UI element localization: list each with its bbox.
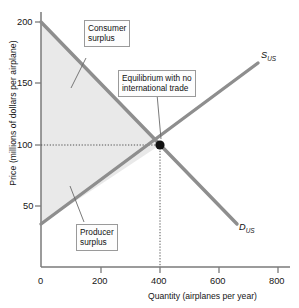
x-tick-label-600: 600 [210, 276, 226, 286]
equilibrium-callout-leader [157, 94, 161, 139]
x-tick-label-800: 800 [269, 276, 285, 286]
consumer-surplus-callout-line2: surplus [88, 33, 126, 43]
demand-curve-label: DUS [239, 222, 255, 234]
equilibrium-callout-line2: international trade [122, 83, 192, 93]
consumer-surplus-callout-line1: Consumer [88, 23, 126, 33]
producer-surplus-callout: Producer surplus [76, 224, 118, 251]
x-tick-label-200: 200 [92, 276, 108, 286]
supply-curve-label-sub: US [267, 55, 276, 62]
equilibrium-point-marker [155, 140, 164, 149]
y-tick-label-150: 150 [17, 78, 33, 88]
x-tick-label-0: 0 [38, 276, 43, 286]
chart-canvas: Price (millions of dollars per airplane)… [0, 0, 299, 308]
supply-curve-label: SUS [261, 50, 276, 62]
y-tick-label-50: 50 [23, 201, 33, 211]
consumer-surplus-callout: Consumer surplus [84, 20, 130, 47]
equilibrium-callout-line1: Equilibrium with no [122, 73, 192, 83]
demand-curve-label-sub: US [246, 227, 255, 234]
supply-demand-figure [0, 0, 299, 308]
producer-surplus-callout-line1: Producer [80, 227, 114, 237]
y-tick-label-100: 100 [17, 140, 33, 150]
x-axis-label: Quantity (airplanes per year) [148, 291, 257, 301]
equilibrium-callout: Equilibrium with no international trade [118, 70, 196, 97]
y-axis-label: Price (millions of dollars per airplane) [8, 0, 18, 228]
y-tick-label-200: 200 [17, 17, 33, 27]
demand-curve-label-letter: D [239, 222, 246, 232]
producer-surplus-callout-line2: surplus [80, 237, 114, 247]
x-tick-label-400: 400 [151, 276, 167, 286]
